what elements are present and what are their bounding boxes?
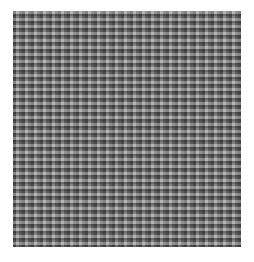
grayscale-noise-texture [13,11,241,247]
page-root [0,0,254,262]
noise-fallback-pattern [13,11,241,247]
figure-container [13,11,241,247]
